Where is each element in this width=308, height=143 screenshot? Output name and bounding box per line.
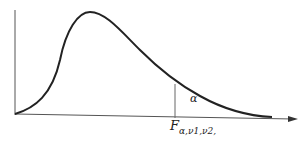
x-axis-arrow-icon xyxy=(288,116,298,122)
critical-value-main: F xyxy=(170,118,179,133)
density-curve xyxy=(15,12,272,117)
f-distribution-diagram xyxy=(0,0,308,143)
area-label: α xyxy=(190,92,197,105)
critical-value-subscript: α,ν1,ν2, xyxy=(179,126,216,136)
critical-value-label: Fα,ν1,ν2, xyxy=(170,118,216,133)
